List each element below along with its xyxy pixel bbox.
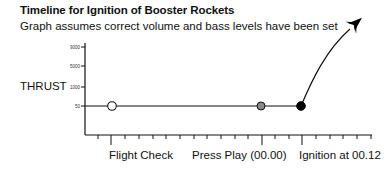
y-tick-label: 1000: [70, 85, 81, 90]
ignition-curve: [301, 29, 350, 106]
timeline-diagram: 9000 5000 1000 50: [0, 0, 391, 171]
ignition-marker: [297, 102, 306, 111]
y-tick-label: 9000: [70, 45, 81, 50]
event-label-ignition: Ignition at 00.12: [299, 149, 381, 161]
y-tick-label: 50: [75, 104, 81, 109]
event-label-press-play: Press Play (00.00): [192, 149, 287, 161]
y-tick-label: 5000: [70, 64, 81, 69]
event-label-flight-check: Flight Check: [109, 149, 173, 161]
y-tick-labels: 9000 5000 1000 50: [70, 45, 81, 109]
x-ticks: [98, 135, 371, 145]
flight-check-marker: [108, 102, 117, 111]
press-play-marker: [257, 102, 265, 110]
